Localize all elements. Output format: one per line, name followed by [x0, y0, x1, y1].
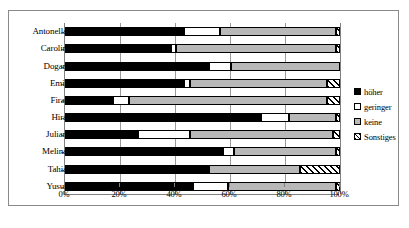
y-axis-category-label: Carolin	[41, 43, 67, 53]
x-axis-tick	[174, 183, 175, 187]
x-axis-tick-label: 60%	[209, 189, 249, 199]
bar-melina[interactable]	[65, 147, 340, 156]
legend-label: höher	[364, 87, 383, 97]
bar-segment-sonstiges	[336, 114, 341, 121]
y-axis-category-label: Melina	[42, 146, 67, 156]
legend-label: Sonstiges	[364, 132, 396, 142]
legend-item-sonstiges[interactable]: Sonstiges	[354, 129, 409, 144]
bar-segment-hoher	[66, 45, 171, 52]
bar-segment-geringer	[138, 131, 190, 138]
legend-swatch-icon	[354, 118, 361, 125]
legend-swatch-icon	[354, 103, 361, 110]
bar-segment-keine	[234, 148, 336, 155]
bar-segment-hoher	[66, 80, 184, 87]
bar-segment-sonstiges	[336, 28, 341, 35]
legend-swatch-icon	[354, 133, 361, 140]
bar-segment-sonstiges	[327, 80, 340, 87]
bar-segment-keine	[129, 97, 327, 104]
y-axis-category-label: Julian	[46, 129, 67, 139]
bar-segment-hoher	[66, 131, 138, 138]
bar-firat[interactable]	[65, 96, 340, 105]
bar-segment-keine	[231, 63, 340, 70]
x-axis-tick	[284, 183, 285, 187]
legend-item-keine[interactable]: keine	[354, 114, 409, 129]
chart-screenshot: 0%20%40%60%80%100% AntonellaCarolinDogan…	[0, 0, 409, 228]
bar-segment-geringer	[113, 97, 130, 104]
gridline	[340, 23, 341, 194]
legend: höhergeringerkeineSonstiges	[354, 84, 409, 144]
legend-swatch-icon	[354, 88, 361, 95]
bar-segment-sonstiges	[327, 97, 340, 104]
x-axis-tick	[339, 183, 340, 187]
y-axis-category-label: Dogan	[44, 61, 68, 71]
bar-segment-keine	[176, 45, 336, 52]
plot-inner	[65, 23, 339, 194]
bar-segment-geringer	[223, 148, 234, 155]
bar-segment-sonstiges	[300, 166, 340, 173]
bar-segment-keine	[220, 28, 336, 35]
bar-julian[interactable]	[65, 130, 340, 139]
y-axis-category-label: Antonella	[32, 26, 67, 36]
bar-segment-geringer	[209, 63, 231, 70]
x-axis-tick	[119, 183, 120, 187]
x-axis-tick	[229, 183, 230, 187]
bar-segment-geringer	[184, 28, 220, 35]
bar-segment-keine	[289, 114, 336, 121]
x-axis-tick-label: 80%	[264, 189, 304, 199]
bar-dogan[interactable]	[65, 62, 340, 71]
bar-emil[interactable]	[65, 79, 340, 88]
chart-frame: 0%20%40%60%80%100% AntonellaCarolinDogan…	[8, 10, 399, 206]
bar-carolin[interactable]	[65, 44, 340, 53]
bar-segment-hoher	[66, 166, 209, 173]
bar-segment-geringer	[261, 114, 289, 121]
legend-item-geringer[interactable]: geringer	[354, 99, 409, 114]
y-axis-category-label: Yusuf	[46, 181, 67, 191]
bar-hira[interactable]	[65, 113, 340, 122]
bar-segment-sonstiges	[336, 148, 341, 155]
plot-area	[64, 23, 339, 195]
y-axis-category-label: Emil	[50, 78, 67, 88]
bar-segment-keine	[190, 80, 328, 87]
y-axis-category-label: Firat	[51, 95, 68, 105]
bar-segment-hoher	[66, 97, 113, 104]
bar-segment-keine	[190, 131, 333, 138]
x-axis-tick-label: 40%	[154, 189, 194, 199]
bar-segment-hoher	[66, 28, 184, 35]
bar-segment-sonstiges	[336, 45, 341, 52]
legend-label: geringer	[364, 102, 392, 112]
legend-label: keine	[364, 117, 382, 127]
legend-item-hoher[interactable]: höher	[354, 84, 409, 99]
bar-segment-hoher	[66, 114, 261, 121]
y-axis-category-label: Hira	[51, 112, 67, 122]
bar-segment-sonstiges	[333, 131, 340, 138]
x-axis-tick-label: 100%	[319, 189, 359, 199]
bar-segment-hoher	[66, 63, 209, 70]
bar-tahia[interactable]	[65, 165, 340, 174]
bar-segment-keine	[209, 166, 300, 173]
x-axis-tick-label: 20%	[99, 189, 139, 199]
y-axis-category-label: Tahia	[48, 164, 67, 174]
bar-antonella[interactable]	[65, 27, 340, 36]
bar-segment-hoher	[66, 148, 223, 155]
